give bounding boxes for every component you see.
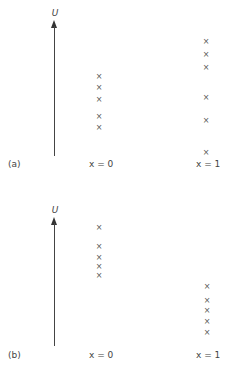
marker: × [204, 297, 211, 305]
u-axis-label: U [52, 205, 59, 215]
panel-label: (b) [8, 350, 21, 360]
marker: × [204, 283, 211, 291]
marker: × [204, 329, 211, 337]
marker: × [96, 272, 103, 280]
x-label-1: x = 1 [196, 350, 220, 360]
marker: × [96, 254, 103, 262]
u-axis [54, 223, 55, 346]
panel-b: U × × × × × × × × × × (b) x = 0 x = 1 [0, 0, 227, 372]
marker: × [96, 243, 103, 251]
marker: × [96, 224, 103, 232]
marker: × [204, 318, 211, 326]
x-label-0: x = 0 [89, 350, 113, 360]
marker: × [204, 307, 211, 315]
marker: × [96, 263, 103, 271]
